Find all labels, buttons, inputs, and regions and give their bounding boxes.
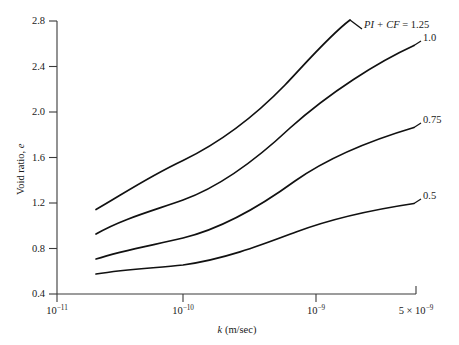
ytick-label-0-4: 0.4 <box>20 289 45 300</box>
curve-label-value-125: 1.25 <box>411 19 429 30</box>
xtick-exponent-2: −10 <box>183 304 194 312</box>
ytick-label-2-0: 2.0 <box>20 107 45 118</box>
curves-group <box>96 20 414 274</box>
leader-line-10 <box>414 41 421 46</box>
xtick-mantissa-3: 10 <box>307 305 318 316</box>
curve-label-equals: = <box>400 19 411 30</box>
curve-label-0-75: 0.75 <box>423 115 441 126</box>
xtick-exponent-4: −9 <box>426 304 434 312</box>
ytick-label-2-8: 2.8 <box>20 16 45 27</box>
curve-label-1-0: 1.0 <box>423 33 436 44</box>
xtick-exponent-3: −9 <box>317 304 325 312</box>
ytick-label-1-2: 1.2 <box>20 198 45 209</box>
xtick-label-1e-11: 10−11 <box>31 306 83 317</box>
y-axis-label-text: Void ratio, <box>15 148 26 195</box>
x-axis-label-units: (m/sec) <box>222 324 256 335</box>
xtick-exponent-1: −11 <box>57 304 68 312</box>
chart-figure: 0.4 0.8 1.2 1.6 2.0 2.4 2.8 10−11 10−10 … <box>0 0 459 345</box>
curve-label-0-5: 0.5 <box>423 191 436 202</box>
leader-line-125 <box>350 20 362 29</box>
xtick-mantissa-4: 5 × 10 <box>399 305 426 316</box>
xtick-mantissa-1: 10 <box>46 305 57 316</box>
curve-0-75 <box>96 128 414 260</box>
curve-1-0 <box>96 46 414 235</box>
curve-label-pi-cf-125: PI + CF = 1.25 <box>364 20 429 31</box>
ytick-label-0-8: 0.8 <box>20 244 45 255</box>
plot-canvas <box>0 0 459 345</box>
y-tick-marks <box>49 21 57 294</box>
xtick-label-1e-9: 10−9 <box>290 306 342 317</box>
leader-line-05 <box>414 199 421 204</box>
ytick-label-2-4: 2.4 <box>20 62 45 73</box>
xtick-label-5e-9: 5 × 10−9 <box>381 306 451 317</box>
leader-line-075 <box>414 123 421 128</box>
y-axis-label-symbol: e <box>15 144 26 149</box>
x-axis-label: k (m/sec) <box>167 325 307 336</box>
curve-label-prefix: PI + CF <box>364 19 400 30</box>
xtick-mantissa-2: 10 <box>172 305 183 316</box>
xtick-label-1e-10: 10−10 <box>157 306 209 317</box>
y-axis-label: Void ratio, e <box>16 144 27 195</box>
